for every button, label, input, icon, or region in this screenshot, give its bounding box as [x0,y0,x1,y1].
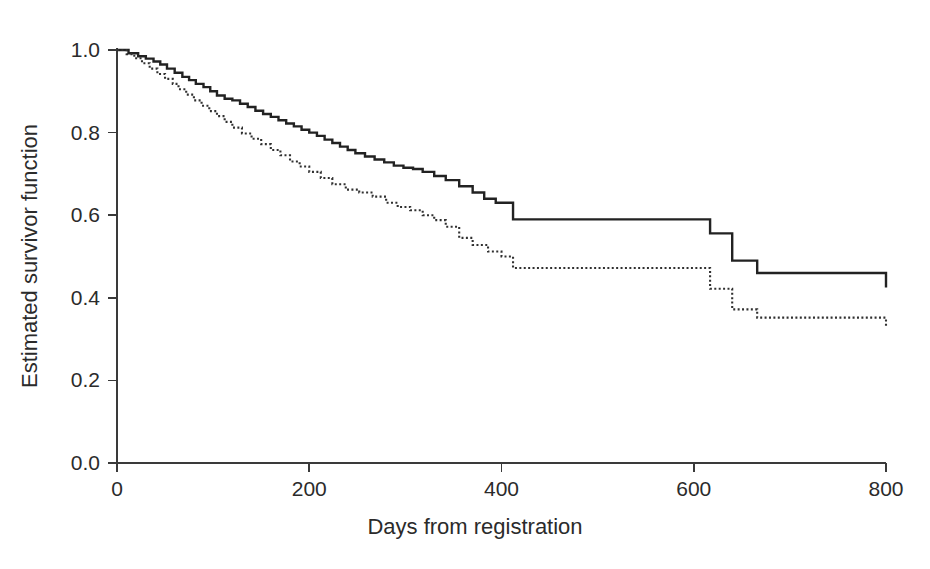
chart-background [0,0,930,569]
survival-plot-figure: 0.00.20.40.60.81.0 0200400600800 Days fr… [0,0,930,569]
x-tick-label: 0 [111,477,123,500]
y-tick-label: 0.0 [71,451,100,474]
x-tick-label: 200 [292,477,327,500]
chart-canvas: 0.00.20.40.60.81.0 0200400600800 Days fr… [0,0,930,569]
x-axis-title: Days from registration [367,514,582,539]
x-tick-label: 800 [868,477,903,500]
y-tick-label: 0.6 [71,203,100,226]
y-tick-label: 0.2 [71,368,100,391]
y-tick-label: 0.4 [71,286,101,309]
x-tick-label: 600 [676,477,711,500]
x-tick-label: 400 [484,477,519,500]
y-tick-label: 0.8 [71,121,100,144]
y-tick-label: 1.0 [71,38,100,61]
y-axis-title: Estimated survivor function [17,124,42,388]
